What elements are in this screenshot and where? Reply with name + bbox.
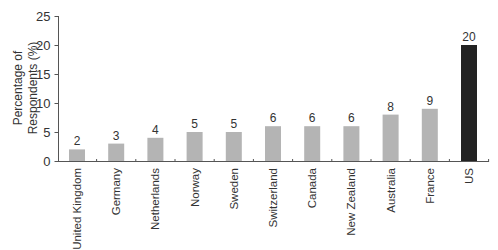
x-category-label: Netherlands [149, 168, 161, 230]
bar-sweden [226, 132, 242, 161]
x-category-label: Sweden [228, 168, 240, 210]
x-category-label: France [424, 168, 436, 204]
bar-france [422, 109, 438, 161]
bar-norway [187, 132, 203, 161]
x-category-label: United Kingdom [71, 168, 83, 250]
y-tick-label: 10 [36, 96, 50, 111]
y-tick-label: 15 [36, 67, 50, 82]
bar-chart: Percentage of Respondents (%) 0510152025… [0, 0, 498, 250]
bar-canada [304, 126, 320, 161]
bar-us [461, 45, 477, 161]
y-tick-label: 20 [36, 38, 50, 53]
bar-value-label: 8 [387, 100, 394, 114]
y-axis-label-line-1: Percentage of [11, 50, 25, 125]
bar-germany [108, 144, 124, 161]
y-tick-label: 0 [43, 154, 50, 169]
y-axis-label-line-2: Respondents (%) [26, 42, 40, 135]
bar-netherlands [147, 138, 163, 161]
bar-value-label: 20 [462, 30, 476, 44]
x-category-label: New Zealand [345, 168, 357, 236]
bar-value-label: 6 [270, 111, 277, 125]
x-category-label: Switzerland [267, 168, 279, 227]
y-tick-label: 5 [43, 125, 50, 140]
x-category-label: Germany [110, 168, 122, 216]
bar-value-label: 4 [152, 123, 159, 137]
bars: 234556668920 [69, 30, 477, 161]
x-category-label: US [463, 168, 475, 184]
bar-switzerland [265, 126, 281, 161]
x-category-label: Norway [189, 168, 201, 207]
bar-new-zealand [343, 126, 359, 161]
bar-united-kingdom [69, 149, 85, 161]
y-tick-label: 25 [36, 9, 50, 24]
x-category-label: Canada [306, 167, 318, 208]
bar-value-label: 6 [309, 111, 316, 125]
bar-value-label: 5 [230, 117, 237, 131]
bar-value-label: 9 [426, 94, 433, 108]
bar-australia [383, 115, 399, 161]
bar-value-label: 2 [74, 134, 81, 148]
bar-value-label: 5 [191, 117, 198, 131]
x-axis-categories: United KingdomGermanyNetherlandsNorwaySw… [71, 159, 489, 250]
bar-value-label: 6 [348, 111, 355, 125]
x-category-label: Australia [385, 167, 397, 212]
bar-value-label: 3 [113, 129, 120, 143]
